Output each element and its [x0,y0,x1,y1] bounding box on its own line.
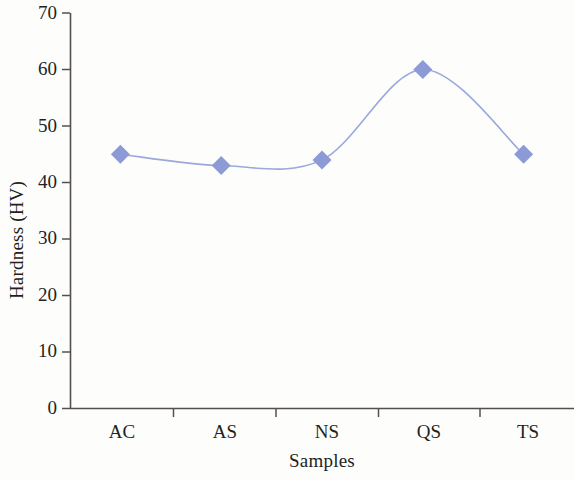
plot-area [0,0,574,480]
y-tick-marks [62,13,70,409]
hardness-line-chart: Hardness (HV) Samples 0 10 20 30 40 50 6… [0,0,574,480]
data-point-ac [111,145,130,164]
data-point-as [212,156,231,175]
data-series-hardness [111,60,533,175]
x-tick-marks [174,409,481,418]
data-point-ns [313,150,332,169]
axes [62,13,574,417]
data-point-qs [413,60,432,79]
series-markers [111,60,533,175]
